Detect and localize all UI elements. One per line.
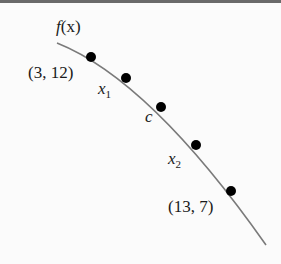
point-13-7 — [226, 186, 236, 196]
x1-subscript: 1 — [106, 88, 112, 100]
label-x2: x2 — [168, 150, 181, 170]
label-c: c — [145, 108, 153, 125]
label-point-13-7: (13, 7) — [168, 198, 213, 215]
x2-base: x — [168, 149, 176, 168]
function-label: f(x) — [56, 18, 81, 35]
curve-diagram — [0, 0, 281, 264]
x1-base: x — [98, 79, 106, 98]
point-3-12 — [86, 52, 96, 62]
label-x1: x1 — [98, 80, 111, 100]
point-c — [156, 102, 166, 112]
point-x2 — [191, 140, 201, 150]
point-x1 — [121, 73, 131, 83]
label-point-3-12: (3, 12) — [28, 64, 73, 81]
x2-subscript: 2 — [176, 158, 182, 170]
function-arg: (x) — [61, 17, 81, 36]
function-curve — [57, 43, 266, 245]
